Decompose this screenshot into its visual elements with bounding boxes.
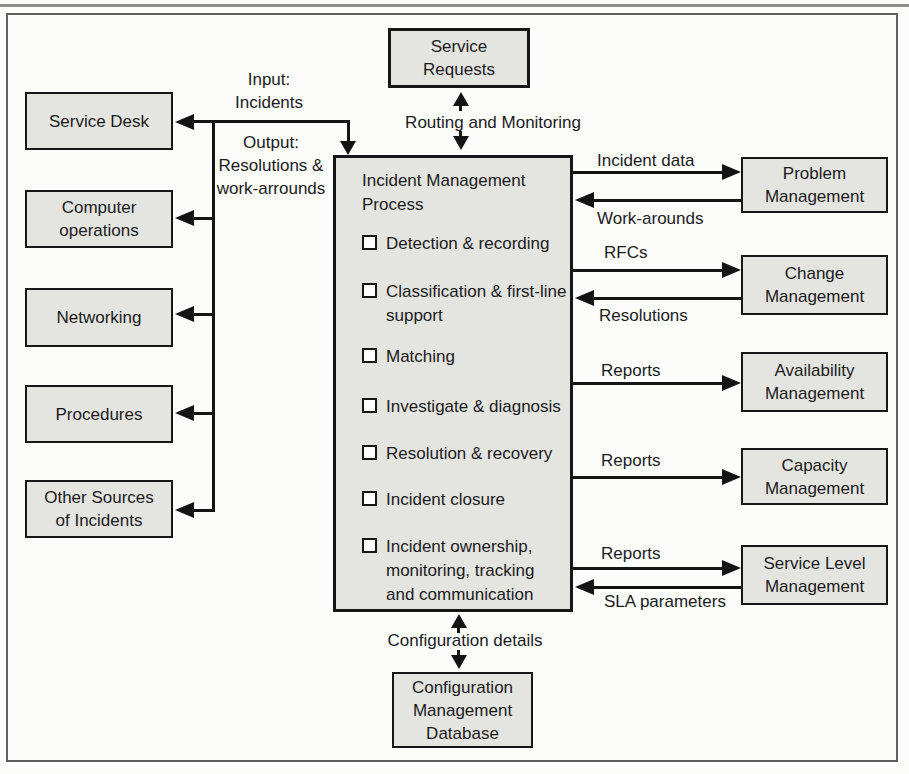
process-step-ownership: Incident ownership, monitoring, tracking… (362, 535, 567, 607)
arrow-line-reports-capacity (573, 476, 724, 479)
arrow-line-procedures (192, 412, 214, 415)
checkbox-icon (362, 235, 377, 250)
arrow-line-reports-service-level (573, 567, 724, 570)
label-sla-parameters: SLA parameters (604, 590, 726, 613)
process-step-label: Incident closure (386, 488, 505, 512)
box-networking: Networking (25, 288, 173, 347)
checkbox-icon (362, 398, 377, 413)
arrow-line-input-output (192, 120, 350, 123)
process-step-investigate: Investigate & diagnosis (362, 395, 567, 419)
arrow-line-incident-data (573, 171, 724, 174)
arrow-line-reports-availability (573, 382, 724, 385)
label-output-resolutions: Output: Resolutions & work-arrounds (201, 131, 341, 200)
process-step-label: Resolution & recovery (386, 442, 552, 466)
label-reports-capacity: Reports (601, 449, 661, 472)
box-computer-operations: Computer operations (25, 190, 173, 248)
arrow-trunk-left (212, 121, 215, 512)
box-service-level-management: Service Level Management (741, 545, 888, 605)
process-step-closure: Incident closure (362, 488, 567, 512)
arrowhead-reports-capacity (722, 469, 741, 485)
process-step-label: Classification & first-line support (386, 280, 566, 328)
arrow-stub-bottom-upper (457, 627, 460, 633)
label-routing-and-monitoring: Routing and Monitoring (370, 111, 616, 134)
arrow-line-resolutions (592, 297, 742, 300)
arrow-line-networking (192, 313, 214, 316)
process-step-resolution: Resolution & recovery (362, 442, 567, 466)
arrowhead-up-to-process (451, 614, 467, 628)
scan-rule-line (0, 4, 909, 7)
arrowhead-up-to-service-requests (453, 92, 469, 106)
arrowhead-to-computer-operations (175, 210, 194, 226)
arrow-line-sla-parameters (592, 586, 742, 589)
arrowhead-work-arounds (575, 192, 594, 208)
box-change-management: Change Management (741, 255, 888, 315)
arrowhead-to-other-sources (175, 502, 194, 518)
arrowhead-resolutions (575, 290, 594, 306)
process-step-label: Detection & recording (386, 232, 549, 256)
box-service-requests: Service Requests (388, 28, 530, 88)
checkbox-icon (362, 348, 377, 363)
box-other-sources-of-incidents: Other Sources of Incidents (25, 480, 173, 538)
arrowhead-to-procedures (175, 405, 194, 421)
box-incident-management-process: Incident Management Process Detection & … (333, 155, 573, 612)
label-reports-service-level: Reports (601, 542, 661, 565)
arrow-stub-top-upper (459, 105, 462, 111)
label-reports-availability: Reports (601, 359, 661, 382)
label-work-arounds: Work-arounds (597, 207, 703, 230)
process-step-label: Incident ownership, monitoring, tracking… (386, 535, 534, 607)
arrow-line-rfcs (573, 269, 724, 272)
arrowhead-sla-parameters (575, 579, 594, 595)
label-configuration-details: Configuration details (387, 629, 543, 652)
box-service-desk: Service Desk (25, 92, 173, 150)
checkbox-icon (362, 491, 377, 506)
process-step-classification: Classification & first-line support (362, 280, 567, 328)
box-problem-management: Problem Management (741, 157, 888, 213)
arrowhead-down-to-process (453, 136, 469, 150)
label-resolutions: Resolutions (599, 304, 688, 327)
arrow-line-work-arounds (592, 199, 742, 202)
checkbox-icon (362, 445, 377, 460)
label-input-incidents: Input: Incidents (209, 68, 329, 114)
process-title: Incident Management Process (362, 169, 526, 217)
process-step-matching: Matching (362, 345, 567, 369)
checkbox-icon (362, 538, 377, 553)
box-configuration-management-database: Configuration Management Database (392, 672, 533, 748)
arrowhead-down-to-cmdb (451, 655, 467, 669)
arrow-line-other-sources (192, 509, 214, 512)
box-procedures: Procedures (25, 385, 173, 443)
checkbox-icon (362, 283, 377, 298)
arrowhead-to-service-desk (175, 114, 194, 130)
label-rfcs: RFCs (604, 241, 647, 264)
process-step-label: Matching (386, 345, 455, 369)
arrow-line-computer-operations (192, 217, 214, 220)
arrowhead-to-networking (175, 306, 194, 322)
process-step-label: Investigate & diagnosis (386, 395, 561, 419)
arrowhead-incident-data (722, 164, 741, 180)
arrowhead-reports-service-level (722, 560, 741, 576)
box-capacity-management: Capacity Management (741, 448, 888, 505)
arrowhead-rfcs (722, 262, 741, 278)
label-incident-data: Incident data (597, 149, 694, 172)
process-step-detection: Detection & recording (362, 232, 567, 256)
figure-incident-management-diagram: Service Requests Service Desk Computer o… (0, 0, 909, 774)
arrowhead-reports-availability (722, 375, 741, 391)
arrow-line-into-process-top (347, 121, 350, 143)
box-availability-management: Availability Management (741, 352, 888, 412)
arrowhead-into-process (340, 141, 356, 155)
